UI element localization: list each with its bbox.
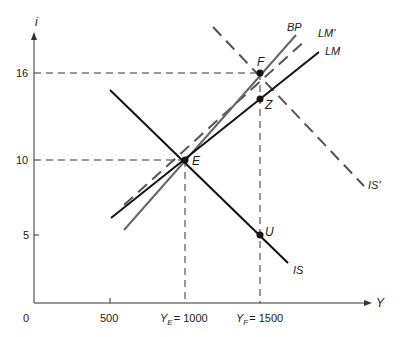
label-is-prime: IS' — [368, 179, 381, 191]
y-tick-label-16: 16 — [16, 67, 28, 79]
ye-sub: E — [167, 318, 173, 327]
label-z: Z — [264, 98, 273, 112]
x-tick-label-ye: YE= 1000 — [160, 312, 208, 327]
label-lm-prime: LM' — [318, 27, 336, 39]
label-e: E — [192, 154, 201, 168]
is-lm-bp-diagram: i Y 0 16 10 5 500 YE= 1000 YF= 1500 BP L… — [0, 0, 402, 337]
yf-rest: = 1500 — [249, 312, 283, 324]
origin-label: 0 — [23, 312, 29, 324]
point-u — [257, 232, 264, 239]
point-e — [182, 157, 189, 164]
label-bp: BP — [287, 21, 302, 33]
y-tick-label-5: 5 — [23, 229, 29, 241]
x-tick-label-500: 500 — [100, 312, 118, 324]
x-tick-label-yf: YF= 1500 — [236, 312, 283, 327]
point-f — [257, 70, 264, 77]
label-lm: LM — [325, 45, 341, 57]
x-axis-label: Y — [376, 296, 385, 310]
label-is: IS — [293, 264, 304, 276]
curve-lm-prime — [124, 39, 307, 205]
label-f: F — [257, 55, 265, 69]
point-z — [257, 96, 264, 103]
ye-rest: = 1000 — [174, 312, 208, 324]
y-tick-label-10: 10 — [16, 154, 28, 166]
curve-bp — [124, 35, 296, 230]
x-axis-arrow-icon — [364, 300, 372, 306]
y-axis-label: i — [35, 15, 38, 29]
label-u: U — [265, 225, 274, 239]
curve-is-prime — [213, 27, 364, 186]
y-axis-arrow-icon — [31, 32, 37, 40]
